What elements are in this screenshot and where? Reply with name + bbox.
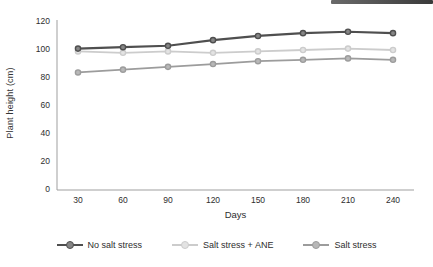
data-point-marker [345,46,350,51]
legend-label: Salt stress [334,240,376,250]
data-point-marker [390,57,395,62]
x-tick-label: 30 [73,195,83,205]
x-tick-label: 90 [163,195,173,205]
data-point-marker [210,50,215,55]
screenshot-root: 020406080100120306090120150180210240 Pla… [0,0,433,267]
x-tick-label: 150 [251,195,265,205]
x-tick-label: 180 [296,195,310,205]
plant-height-line-chart: 020406080100120306090120150180210240 Pla… [0,0,433,267]
data-point-marker [120,45,125,50]
data-point-marker [390,47,395,52]
legend-circle-marker-icon [181,241,189,249]
data-point-marker [255,49,260,54]
legend-item-salt-stress-ane: Salt stress + ANE [172,240,273,250]
data-point-marker [300,47,305,52]
x-tick-label: 210 [341,195,355,205]
data-point-marker [120,50,125,55]
data-point-marker [255,33,260,38]
chart-legend: No salt stress Salt stress + ANE Salt st… [0,240,433,250]
data-point-marker [345,29,350,34]
x-tick-label: 60 [118,195,128,205]
y-tick-label: 100 [36,44,50,54]
y-tick-label: 0 [45,184,50,194]
y-tick-label: 120 [36,16,50,26]
y-tick-label: 60 [41,100,51,110]
chart-canvas: 020406080100120306090120150180210240 [0,0,433,267]
data-point-marker [165,49,170,54]
y-tick-label: 40 [41,128,51,138]
x-axis-title: Days [57,209,414,220]
x-tick-label: 240 [386,195,400,205]
y-axis-title: Plant height (cm) [5,28,19,178]
data-point-marker [255,59,260,64]
data-point-marker [165,64,170,69]
legend-item-no-salt-stress: No salt stress [57,240,143,250]
line-marker-swatch-icon [57,241,83,249]
data-point-marker [300,31,305,36]
legend-label: Salt stress + ANE [203,240,273,250]
line-marker-swatch-icon [172,241,198,249]
data-point-marker [390,31,395,36]
data-point-marker [120,67,125,72]
data-point-marker [300,57,305,62]
x-tick-label: 120 [206,195,220,205]
data-point-marker [75,46,80,51]
data-point-marker [345,56,350,61]
line-marker-swatch-icon [303,241,329,249]
data-point-marker [210,61,215,66]
legend-item-salt-stress: Salt stress [303,240,376,250]
y-tick-label: 20 [41,156,51,166]
data-point-marker [210,38,215,43]
y-tick-label: 80 [41,72,51,82]
legend-circle-marker-icon [66,241,74,249]
legend-circle-marker-icon [312,241,320,249]
data-point-marker [165,43,170,48]
legend-label: No salt stress [88,240,143,250]
data-point-marker [75,70,80,75]
